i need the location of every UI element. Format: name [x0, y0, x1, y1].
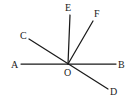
ray-oe	[68, 15, 70, 64]
point-label-d: D	[110, 87, 117, 97]
point-label-a: A	[11, 60, 18, 70]
ray-of	[68, 21, 93, 64]
point-label-c: C	[20, 31, 27, 41]
geometry-figure: A B C D E F O	[0, 0, 132, 108]
point-label-f: F	[94, 9, 100, 19]
point-label-o: O	[64, 68, 71, 78]
point-label-b: B	[118, 60, 125, 70]
point-label-e: E	[65, 3, 71, 13]
